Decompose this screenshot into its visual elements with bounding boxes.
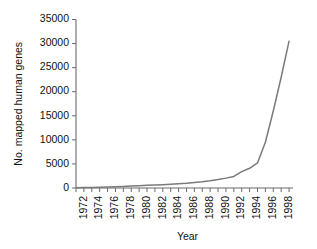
x-axis-tick-marks bbox=[76, 188, 289, 192]
x-axis-tick-label: 1984 bbox=[171, 196, 183, 220]
chart-figure: 05000100001500020000250003000035000 1972… bbox=[0, 0, 317, 249]
y-axis-tick-label: 15000 bbox=[40, 109, 69, 121]
y-axis-tick-label: 30000 bbox=[40, 36, 69, 48]
y-axis-title: No. mapped human genes bbox=[12, 42, 24, 166]
y-axis-tick-labels: 05000100001500020000250003000035000 bbox=[40, 12, 69, 193]
x-axis-tick-label: 1986 bbox=[187, 196, 199, 220]
x-axis-tick-label: 1978 bbox=[124, 196, 136, 220]
y-axis-tick-label: 10000 bbox=[40, 133, 69, 145]
x-axis-tick-label: 1988 bbox=[203, 196, 215, 220]
line-chart: 05000100001500020000250003000035000 1972… bbox=[0, 0, 317, 249]
x-axis-tick-label: 1976 bbox=[108, 196, 120, 220]
x-axis-tick-label: 1982 bbox=[156, 196, 168, 220]
y-axis-tick-marks bbox=[72, 20, 76, 189]
x-axis-tick-label: 1972 bbox=[77, 196, 89, 220]
x-axis-tick-label: 1974 bbox=[92, 196, 104, 220]
y-axis-tick-label: 35000 bbox=[40, 12, 69, 24]
x-axis-tick-label: 1992 bbox=[234, 196, 246, 220]
x-axis-tick-label: 1994 bbox=[250, 196, 262, 220]
y-axis-tick-label: 5000 bbox=[46, 157, 70, 169]
y-axis-tick-label: 25000 bbox=[40, 60, 69, 72]
x-axis-tick-label: 1996 bbox=[266, 196, 278, 220]
gene-count-series-line bbox=[76, 41, 289, 188]
x-axis-tick-label: 1990 bbox=[219, 196, 231, 220]
x-axis-tick-label: 1980 bbox=[140, 196, 152, 220]
x-axis-tick-label: 1998 bbox=[282, 196, 294, 220]
x-axis-title: Year bbox=[177, 230, 199, 242]
y-axis-tick-label: 20000 bbox=[40, 84, 69, 96]
y-axis-tick-label: 0 bbox=[63, 181, 69, 193]
x-axis-tick-labels: 1972197419761978198019821984198619881990… bbox=[77, 196, 294, 220]
